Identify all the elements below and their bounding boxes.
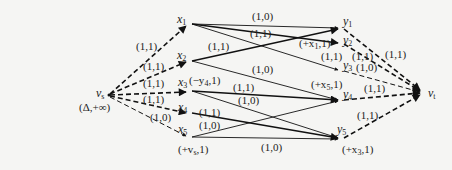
node-x2-label: x2 [176, 48, 186, 63]
flow-network-diagram: vs (Δ,+∞) vt x1 x2 x3 (−y4,1) x4 x5 (+vs… [0, 0, 452, 170]
label-vs-x1: (1,1) [136, 40, 157, 53]
node-x1-label: x1 [176, 12, 186, 27]
label-vs-x3: (1,1) [143, 77, 164, 90]
label-x5-y4: (1,0) [199, 119, 220, 132]
label-x3-y4: (1,1) [233, 81, 254, 94]
node-y4-annotation: (+x5,1) [311, 78, 343, 92]
node-vs-dot [108, 94, 111, 97]
label-y5-vt: (1,1) [357, 109, 378, 122]
node-x5-annotation: (+vs,1) [178, 143, 209, 157]
label-vs-x5: (1,0) [150, 111, 171, 124]
label-x1-y1: (1,0) [252, 10, 273, 23]
edge-x5-y5 [192, 137, 338, 139]
label-x3-y5: (1,0) [238, 94, 259, 107]
label-y2-left: (1,1) [321, 50, 342, 63]
node-x3-annotation: (−y4,1) [189, 74, 221, 88]
node-y1-label: y1 [342, 14, 352, 29]
node-y5-annotation: (+x3,1) [342, 143, 374, 157]
label-x1-y2: (1,1) [250, 27, 271, 40]
node-x3-label: x3 [177, 75, 187, 90]
node-x4-label: x4 [177, 100, 187, 115]
label-vs-x2: (1,1) [143, 60, 164, 73]
edge-x3-y4 [192, 91, 338, 100]
node-y5-label: y5 [336, 122, 346, 137]
node-y3-label: y3 [342, 58, 352, 73]
label-x4-y5: (1,1) [199, 106, 220, 119]
node-vs-label: vs [96, 86, 104, 101]
edge-y5-vt [344, 95, 420, 138]
node-vt-label: vt [428, 86, 436, 101]
node-vs-annotation: (Δ,+∞) [79, 101, 111, 114]
label-y4-vt: (1,1) [364, 82, 385, 95]
node-x5-label: x5 [177, 122, 187, 137]
node-y2-annotation: (+x1,1) [299, 37, 331, 51]
edge-y4-vt [344, 93, 420, 100]
label-x5-y5: (1,0) [261, 141, 282, 154]
node-y4-label: y4 [342, 87, 352, 102]
label-y3-vt: (1,0) [356, 61, 377, 74]
label-y1-vt: (1,1) [385, 48, 406, 61]
label-x2-y4: (1,0) [252, 63, 273, 76]
label-x2-y1: (1,1) [208, 40, 229, 53]
label-vs-x4: (1,1) [143, 93, 164, 106]
